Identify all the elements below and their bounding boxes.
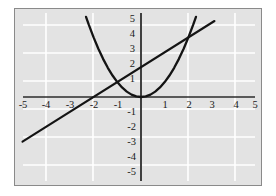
x-tick-label: -5 [19, 99, 28, 110]
x-tick-label: 1 [162, 99, 167, 110]
chart-figure: -5 -4 -3 -2 -1 1 2 3 4 5 5 4 3 2 1 -1 -2… [14, 8, 262, 186]
y-tick-label: -1 [127, 106, 136, 117]
y-tick-label: -3 [127, 136, 136, 147]
x-tick-label: 3 [209, 99, 214, 110]
y-tick-label: 5 [130, 13, 135, 24]
coordinate-plane-plot: -5 -4 -3 -2 -1 1 2 3 4 5 5 4 3 2 1 -1 -2… [15, 9, 261, 185]
x-tick-label: 4 [233, 99, 239, 110]
y-tick-label: 4 [130, 28, 136, 39]
x-tick-label: -4 [42, 99, 51, 110]
x-tick-label: -2 [90, 99, 99, 110]
x-tick-label: -3 [66, 99, 75, 110]
x-tick-label: -1 [114, 99, 123, 110]
x-tick-label: 2 [186, 99, 191, 110]
y-tick-label: -5 [127, 166, 136, 177]
y-tick-label: 2 [130, 58, 135, 69]
y-tick-label: -2 [127, 121, 136, 132]
y-tick-label: -4 [127, 151, 136, 162]
y-tick-label: 3 [130, 43, 135, 54]
x-tick-label: 5 [252, 99, 257, 110]
